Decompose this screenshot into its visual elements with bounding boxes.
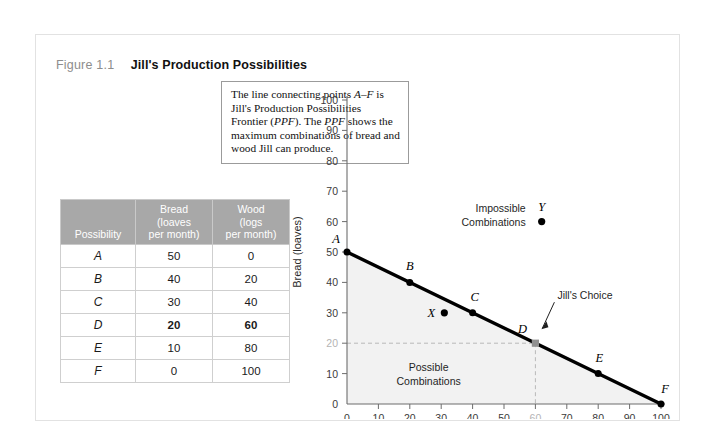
- ppf-chart-svg: 0102030405060708090100010203040506070809…: [281, 49, 671, 419]
- data-point-label-E: E: [594, 351, 603, 365]
- wood-header-line-1: Wood: [237, 203, 264, 215]
- cell-possibility: C: [61, 290, 136, 313]
- y-axis-tick-label: 40: [326, 276, 338, 288]
- data-point-label-D: D: [517, 322, 527, 336]
- x-axis-tick-label: 40: [467, 412, 479, 419]
- bread-header-line-1: Bread: [160, 203, 188, 215]
- cell-possibility: B: [61, 267, 136, 290]
- y-axis-tick-label: 20: [326, 337, 338, 349]
- bread-header-line-2: (loaves: [157, 216, 191, 228]
- cell-possibility: A: [61, 244, 136, 267]
- table-header-row: Possibility Bread (loaves per month) Woo…: [61, 200, 290, 245]
- y-axis-tick-label: 10: [326, 368, 338, 380]
- x-axis-tick-label: 70: [561, 412, 573, 419]
- x-axis-tick-label: 90: [624, 412, 636, 419]
- data-point-label-X: X: [427, 306, 437, 320]
- data-point-C: [469, 309, 476, 316]
- table-body: A500B4020C3040D2060E1080F0100: [61, 244, 290, 382]
- x-axis-tick-label: 20: [404, 412, 416, 419]
- y-axis-title: Bread (loaves): [291, 216, 303, 288]
- y-axis-tick-label: 30: [326, 307, 338, 319]
- x-axis-tick-label: 10: [373, 412, 385, 419]
- cell-possibility: F: [61, 359, 136, 382]
- possible-combinations-label-line-2: Combinations: [397, 375, 461, 387]
- data-point-label-B: B: [406, 259, 414, 273]
- data-point-E: [595, 370, 602, 377]
- production-possibilities-table: Possibility Bread (loaves per month) Woo…: [60, 199, 290, 383]
- table-row: E1080: [61, 336, 290, 359]
- data-point-B: [406, 279, 413, 286]
- x-axis-tick-label: 100: [652, 412, 670, 419]
- y-axis-tick-label: 60: [326, 216, 338, 228]
- cell-wood: 20: [213, 267, 290, 290]
- bread-header-line-3: per month): [149, 228, 200, 240]
- table-row: B4020: [61, 267, 290, 290]
- figure-frame: Figure 1.1 Jill's Production Possibiliti…: [35, 34, 680, 421]
- x-axis-tick-label: 80: [592, 412, 604, 419]
- y-axis-tick-label: 80: [326, 155, 338, 167]
- column-header-wood: Wood (logs per month): [213, 200, 290, 245]
- ppf-chart: 0102030405060708090100010203040506070809…: [281, 49, 671, 419]
- cell-bread: 40: [136, 267, 213, 290]
- y-axis-tick-label: 90: [326, 124, 338, 136]
- possible-combinations-label-line-1: Possible: [409, 361, 449, 373]
- x-axis-tick-label: 30: [435, 412, 447, 419]
- impossible-combinations-label-line-1: Impossible: [475, 202, 525, 214]
- impossible-combinations-label-line-2: Combinations: [461, 216, 525, 228]
- jills-choice-label: Jill's Choice: [557, 289, 612, 301]
- figure-number: Figure 1.1: [56, 58, 114, 72]
- jills-choice-arrow-line: [542, 302, 554, 328]
- column-header-bread: Bread (loaves per month): [136, 200, 213, 245]
- x-axis-tick-label: 60: [530, 412, 542, 419]
- data-point-label-C: C: [470, 290, 479, 304]
- x-axis-tick-label: 0: [344, 412, 350, 419]
- wood-header-line-2: (logs: [240, 216, 263, 228]
- column-header-possibility: Possibility: [61, 200, 136, 245]
- data-point-Y: [538, 218, 545, 225]
- cell-bread: 50: [136, 244, 213, 267]
- data-point-label-A: A: [331, 232, 340, 246]
- figure-heading: Figure 1.1 Jill's Production Possibiliti…: [56, 55, 307, 73]
- table-row: C3040: [61, 290, 290, 313]
- wood-header-line-3: per month): [226, 228, 277, 240]
- cell-possibility: D: [61, 313, 136, 336]
- data-point-F: [658, 401, 665, 408]
- cell-wood: 0: [213, 244, 290, 267]
- y-axis-tick-label: 50: [326, 246, 338, 258]
- data-point-A: [344, 249, 351, 256]
- cell-bread: 30: [136, 290, 213, 313]
- y-axis-tick-label: 0: [332, 398, 338, 410]
- cell-wood: 60: [213, 313, 290, 336]
- y-axis-tick-label: 70: [326, 185, 338, 197]
- table-row: F0100: [61, 359, 290, 382]
- cell-wood: 80: [213, 336, 290, 359]
- cell-bread: 0: [136, 359, 213, 382]
- table-row: A500: [61, 244, 290, 267]
- table-row: D2060: [61, 313, 290, 336]
- x-axis-tick-label: 50: [498, 412, 510, 419]
- cell-wood: 40: [213, 290, 290, 313]
- data-point-label-F: F: [660, 382, 669, 396]
- data-point-X: [441, 309, 448, 316]
- cell-bread: 10: [136, 336, 213, 359]
- cell-wood: 100: [213, 359, 290, 382]
- cell-possibility: E: [61, 336, 136, 359]
- data-point-label-Y: Y: [538, 200, 547, 214]
- y-axis-tick-label: 100: [320, 94, 338, 106]
- cell-bread: 20: [136, 313, 213, 336]
- data-point-D: [532, 340, 539, 347]
